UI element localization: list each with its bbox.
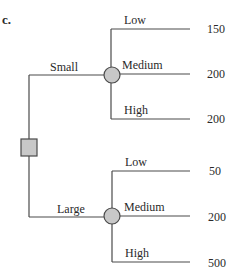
- outcome-label-large-high: High: [125, 247, 149, 259]
- chance-node-large: [104, 208, 120, 224]
- outcome-label-large-low: Low: [125, 156, 147, 168]
- outcome-label-small-low: Low: [124, 14, 146, 26]
- chance-node-small: [104, 67, 120, 83]
- payoff-large-low: 50: [209, 165, 221, 177]
- outcome-label-small-high: High: [124, 104, 148, 116]
- decision-tree-diagram: [0, 0, 237, 278]
- payoff-small-medium: 200: [207, 68, 225, 80]
- payoff-small-high: 200: [207, 113, 225, 125]
- outcome-label-small-medium: Medium: [122, 59, 163, 71]
- payoff-large-medium: 200: [208, 211, 226, 223]
- decision-label-large: Large: [57, 203, 85, 215]
- payoff-large-high: 500: [208, 257, 226, 269]
- part-label: c.: [2, 14, 11, 26]
- decision-node-square: [21, 139, 37, 156]
- outcome-label-large-medium: Medium: [124, 201, 165, 213]
- decision-label-small: Small: [50, 61, 78, 73]
- payoff-small-low: 150: [207, 23, 225, 35]
